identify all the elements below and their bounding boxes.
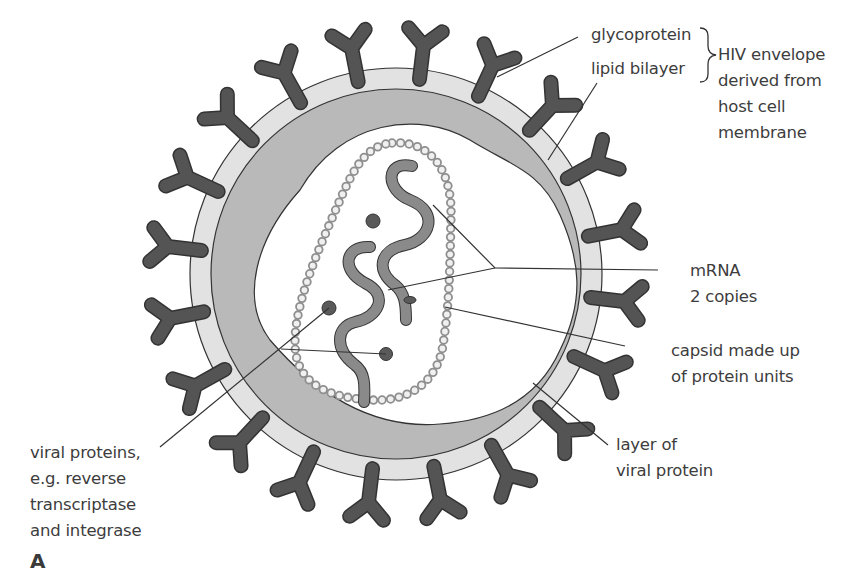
label-envelope-line: HIV envelope <box>718 42 825 68</box>
capsid-unit <box>342 183 350 191</box>
capsid-unit <box>325 222 333 230</box>
capsid-unit <box>336 392 344 400</box>
label-layer-line: layer of <box>616 432 713 458</box>
capsid-unit <box>436 353 444 361</box>
capsid-unit <box>444 182 452 190</box>
capsid-unit <box>339 190 347 198</box>
label-lipid-bilayer: lipid bilayer <box>591 56 685 82</box>
capsid-unit <box>306 270 314 278</box>
capsid-unit <box>382 140 390 148</box>
capsid-unit <box>315 246 323 254</box>
capsid-unit <box>444 293 452 301</box>
label-mrna-line: 2 copies <box>690 284 757 310</box>
capsid-unit <box>446 268 454 276</box>
capsid-unit <box>370 396 378 404</box>
capsid-unit <box>421 147 429 155</box>
label-viral-proteins-line: viral proteins, <box>30 440 141 466</box>
label-envelope-line: derived from <box>718 68 825 94</box>
capsid-unit <box>403 390 411 398</box>
capsid-unit <box>327 389 335 397</box>
capsid-unit <box>428 152 436 160</box>
capsid-unit <box>447 242 455 250</box>
capsid-unit <box>335 198 343 206</box>
capsid-unit <box>442 174 450 182</box>
capsid-unit <box>332 206 340 214</box>
capsid-unit <box>443 311 451 319</box>
capsid-unit <box>360 154 368 162</box>
capsid-unit <box>429 369 437 377</box>
capsid-unit <box>328 214 336 222</box>
label-glycoprotein: glycoprotein <box>591 22 691 48</box>
capsid-unit <box>346 175 354 183</box>
capsid-unit <box>303 278 311 286</box>
panel-label: A <box>30 549 45 573</box>
capsid-unit <box>344 394 352 402</box>
capsid-unit <box>378 396 386 404</box>
capsid-unit <box>446 190 454 198</box>
label-envelope-line: host cell <box>718 94 825 120</box>
capsid-unit <box>395 393 403 401</box>
enzyme-dot <box>404 297 416 304</box>
capsid-unit <box>305 376 313 384</box>
capsid-unit <box>374 143 382 151</box>
capsid-unit <box>442 319 450 327</box>
capsid-unit <box>433 159 441 167</box>
capsid-unit <box>293 320 301 328</box>
capsid-unit <box>292 328 300 336</box>
capsid-unit <box>309 262 317 270</box>
capsid-unit <box>387 395 395 403</box>
capsid-unit <box>438 166 446 174</box>
capsid-unit <box>411 386 419 394</box>
label-envelope: HIV envelope derived from host cell memb… <box>718 42 825 146</box>
label-viral-proteins-line: transcriptase <box>30 492 141 518</box>
capsid-unit <box>446 251 454 259</box>
label-viral-protein-layer: layer of viral protein <box>616 432 713 484</box>
enzyme-dot <box>366 214 380 228</box>
capsid-unit <box>447 233 455 241</box>
capsid-unit <box>440 336 448 344</box>
capsid-unit <box>355 160 363 168</box>
capsid-unit <box>445 285 453 293</box>
capsid-unit <box>296 362 304 370</box>
label-capsid-line: of protein units <box>671 364 800 390</box>
label-envelope-line: membrane <box>718 120 825 146</box>
capsid-unit <box>300 370 308 378</box>
label-mrna: mRNA 2 copies <box>690 258 757 310</box>
capsid-unit <box>414 143 422 151</box>
capsid-unit <box>447 208 455 216</box>
capsid-unit <box>405 140 413 148</box>
capsid-unit <box>322 230 330 238</box>
label-capsid: capsid made up of protein units <box>671 338 800 390</box>
label-viral-proteins-line: and integrase <box>30 518 141 544</box>
capsid-unit <box>424 375 432 383</box>
capsid-unit <box>312 381 320 389</box>
capsid-unit <box>397 139 405 147</box>
capsid-unit <box>441 328 449 336</box>
label-viral-proteins-line: e.g. reverse <box>30 466 141 492</box>
label-mrna-line: mRNA <box>690 258 757 284</box>
capsid-unit <box>439 345 447 353</box>
capsid-unit <box>312 254 320 262</box>
capsid-unit <box>319 386 327 394</box>
label-capsid-line: capsid made up <box>671 338 800 364</box>
capsid-unit <box>298 295 306 303</box>
capsid-unit <box>367 148 375 156</box>
capsid-unit <box>433 361 441 369</box>
capsid-unit <box>296 303 304 311</box>
capsid-unit <box>294 311 302 319</box>
virus-envelope <box>190 68 602 480</box>
capsid-unit <box>301 286 309 294</box>
capsid-unit <box>350 167 358 175</box>
capsid-unit <box>418 381 426 389</box>
label-viral-proteins: viral proteins, e.g. reverse transcripta… <box>30 440 141 544</box>
label-layer-line: viral protein <box>616 458 713 484</box>
capsid-unit <box>447 199 455 207</box>
envelope-brace <box>700 28 716 82</box>
capsid-unit <box>446 259 454 267</box>
capsid-unit <box>318 238 326 246</box>
capsid-unit <box>293 354 301 362</box>
